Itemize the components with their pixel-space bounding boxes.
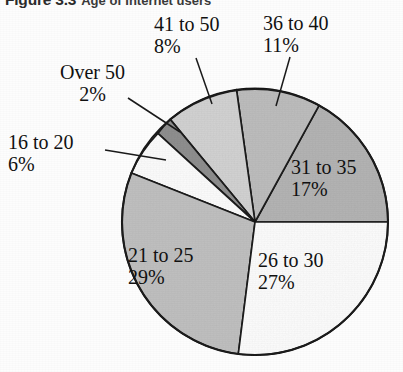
figure-page: Figure 3.3Age of Internet users [0, 0, 403, 372]
pie-label-31-to-35-name: 31 to 35 [291, 156, 357, 178]
pie-label-36-to-40: 36 to 40 11% [263, 13, 329, 56]
pie-label-41-to-50: 41 to 50 8% [154, 14, 220, 57]
pie-label-over-50: Over 50 2% [60, 62, 125, 105]
pie-label-over-50-percent: 2% [60, 84, 125, 106]
pie-label-16-to-20: 16 to 20 6% [8, 132, 74, 175]
pie-label-31-to-35: 31 to 35 17% [291, 157, 357, 200]
pie-label-31-to-35-percent: 17% [291, 179, 357, 201]
pie-label-36-to-40-percent: 11% [263, 35, 329, 57]
pie-label-21-to-25: 21 to 25 29% [128, 245, 194, 288]
pie-label-41-to-50-percent: 8% [154, 36, 220, 58]
pie-label-26-to-30: 26 to 30 27% [258, 250, 324, 293]
pie-label-41-to-50-name: 41 to 50 [154, 13, 220, 35]
leader-line-41-to-50 [196, 58, 212, 104]
pie-label-16-to-20-name: 16 to 20 [8, 131, 74, 153]
pie-label-26-to-30-percent: 27% [258, 272, 324, 294]
pie-label-36-to-40-name: 36 to 40 [263, 12, 329, 34]
pie-label-21-to-25-percent: 29% [128, 267, 194, 289]
leader-line-over-50 [128, 98, 180, 132]
pie-label-21-to-25-name: 21 to 25 [128, 244, 194, 266]
pie-label-16-to-20-percent: 6% [8, 154, 74, 176]
pie-label-26-to-30-name: 26 to 30 [258, 249, 324, 271]
pie-label-over-50-name: Over 50 [60, 61, 125, 83]
